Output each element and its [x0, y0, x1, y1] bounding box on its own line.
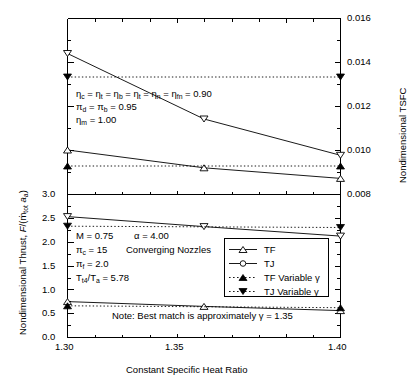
- ytick-left-20: 2.0: [42, 237, 55, 247]
- annotation-mech-efficiency: ηm = 1.00: [76, 115, 116, 126]
- xtick-140: 1.40: [328, 342, 347, 352]
- annotation-efficiencies: ηc = ηt = ηb = ηt = ηn = ηfn = 0.90: [76, 89, 212, 100]
- xtick-130: 1.30: [55, 342, 74, 352]
- ytick-left-00: 0.0: [42, 332, 55, 342]
- lower-x-ticks: [68, 334, 341, 338]
- ytick-right-0014: 0.014: [347, 57, 371, 67]
- annotation-temp-ratio: Tt4/Ta = 5.78: [76, 273, 129, 284]
- series-tf-tsfc: [64, 147, 345, 181]
- ytick-left-15: 1.5: [42, 261, 55, 271]
- y-axis-right-title: Nondimensional TSFC: [398, 88, 408, 183]
- xtick-135: 1.35: [165, 342, 184, 352]
- legend-label-tj-variable-gamma: TJ Variable γ: [264, 287, 319, 297]
- annotation-pressure-ratios: πd = πb = 0.95: [76, 102, 137, 113]
- annotation-pi-f: πf = 2.0: [76, 259, 109, 270]
- series-tj-variable-gamma-tsfc: [64, 74, 345, 80]
- annotation-mach: M = 0.75: [76, 231, 113, 241]
- legend-label-tf-variable-gamma: TF Variable γ: [264, 273, 320, 283]
- y-axis-left-title: Nondimensional Thrust, F/(ṁtot aa): [18, 190, 29, 335]
- ytick-right-0008: 0.008: [347, 189, 371, 199]
- ytick-right-0010: 0.010: [347, 145, 371, 155]
- lower-right-axis-ticks: [335, 195, 341, 338]
- annotation-pi-c: πc = 15: [76, 245, 107, 256]
- ytick-left-25: 2.5: [42, 213, 55, 223]
- x-axis-title: Constant Specific Heat Ratio: [126, 365, 247, 375]
- ytick-right-0016: 0.016: [347, 13, 371, 23]
- legend-label-tj: TJ: [264, 259, 275, 269]
- ytick-left-10: 1.0: [42, 285, 55, 295]
- legend-label-tf: TF: [264, 245, 276, 255]
- ytick-right-0012: 0.012: [347, 101, 371, 111]
- annotation-nozzles: Converging Nozzles: [126, 245, 211, 255]
- annotation-alpha: α = 4.00: [134, 231, 169, 241]
- ytick-left-30: 3.0: [42, 189, 55, 199]
- ytick-left-05: 0.5: [42, 308, 55, 318]
- annotation-note: Note: Best match is approximately γ = 1.…: [112, 311, 293, 321]
